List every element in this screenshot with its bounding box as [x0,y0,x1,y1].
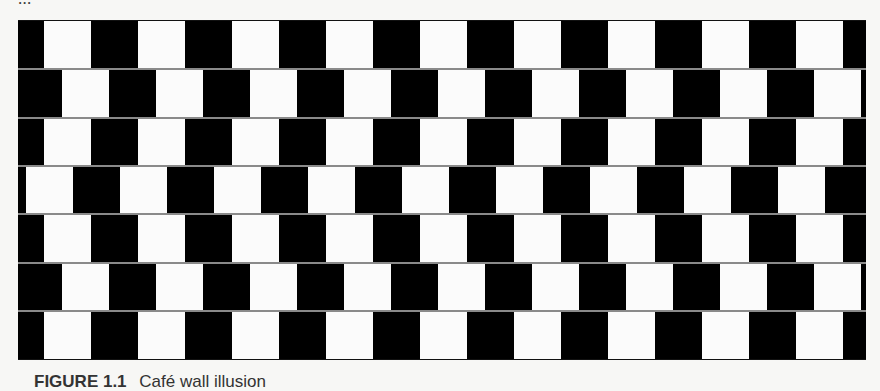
white-tile [420,311,467,359]
white-tile [420,118,467,166]
mortar-line [18,213,866,215]
white-tile [514,311,561,359]
white-tile [702,214,749,262]
white-tile [250,263,297,311]
white-tile [62,69,109,117]
white-tile [232,311,279,359]
mortar-line [18,165,866,167]
mortar-line [18,310,866,312]
cafe-wall-illusion-figure [18,20,866,360]
mortar-line [18,262,866,264]
white-tile [684,166,731,214]
white-tile [308,166,355,214]
previous-page-text: ... [18,0,32,9]
tile-row [18,69,866,117]
white-tile [514,214,561,262]
white-tile [796,214,843,262]
tile-row [18,311,866,359]
white-tile [344,69,391,117]
white-tile [814,263,861,311]
white-tile [720,263,767,311]
white-tile [326,311,373,359]
white-tile [138,118,185,166]
white-tile [326,118,373,166]
white-tile [44,311,91,359]
white-tile [138,214,185,262]
white-tile [608,311,655,359]
white-tile [796,21,843,69]
white-tile [44,118,91,166]
white-tile [438,69,485,117]
white-tile [778,166,825,214]
white-tile [138,311,185,359]
white-tile [532,69,579,117]
white-tile [232,214,279,262]
white-tile [702,118,749,166]
white-tile [626,69,673,117]
white-tile [514,118,561,166]
white-tile [344,263,391,311]
figure-caption-text: Café wall illusion [139,372,266,391]
white-tile [420,21,467,69]
white-tile [532,263,579,311]
white-tile [626,263,673,311]
tile-row [18,214,866,262]
figure-label: FIGURE 1.1 [34,372,127,391]
white-tile [44,21,91,69]
white-tile [250,69,297,117]
white-tile [232,21,279,69]
white-tile [702,21,749,69]
white-tile [138,21,185,69]
mortar-line [18,117,866,119]
tile-row [18,118,866,166]
tile-row [18,166,866,214]
white-tile [496,166,543,214]
white-tile [156,69,203,117]
white-tile [438,263,485,311]
tile-row [18,263,866,311]
white-tile [720,69,767,117]
white-tile [214,166,261,214]
white-tile [608,214,655,262]
mortar-line [18,68,866,70]
white-tile [590,166,637,214]
white-tile [326,21,373,69]
white-tile [702,311,749,359]
figure-caption: FIGURE 1.1 Café wall illusion [34,372,266,391]
white-tile [608,118,655,166]
white-tile [44,214,91,262]
white-tile [608,21,655,69]
white-tile [796,118,843,166]
white-tile [120,166,167,214]
white-tile [156,263,203,311]
white-tile [420,214,467,262]
white-tile [232,118,279,166]
white-tile [814,69,861,117]
tile-row [18,21,866,69]
white-tile [402,166,449,214]
white-tile [326,214,373,262]
white-tile [62,263,109,311]
white-tile [796,311,843,359]
white-tile [26,166,73,214]
white-tile [514,21,561,69]
